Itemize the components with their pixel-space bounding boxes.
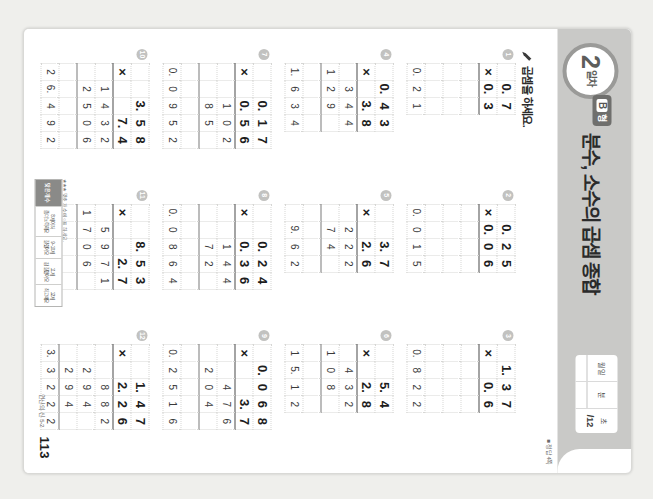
partial-product-digit[interactable] [199, 413, 217, 430]
partial-product-digit[interactable] [321, 255, 339, 272]
result-digit[interactable]: 0. [407, 64, 425, 81]
partial-product-digit[interactable]: 2 [77, 81, 95, 98]
empty-cell[interactable] [303, 238, 321, 255]
partial-product-digit[interactable]: 2 [95, 132, 113, 149]
result-digit[interactable]: 2 [407, 379, 425, 396]
partial-product-digit[interactable]: 2 [339, 396, 357, 413]
empty-cell[interactable] [443, 379, 461, 396]
result-digit[interactable]: 6 [285, 81, 303, 98]
partial-product-digit[interactable]: 1 [77, 204, 95, 221]
result-digit[interactable]: 0. [163, 204, 181, 221]
partial-product-digit[interactable]: 2 [199, 362, 217, 379]
empty-cell[interactable] [303, 64, 321, 81]
result-digit[interactable]: 8 [163, 238, 181, 255]
empty-cell[interactable] [181, 255, 199, 272]
partial-product-digit[interactable]: 2 [199, 255, 217, 272]
result-digit[interactable]: 5 [163, 379, 181, 396]
empty-cell[interactable] [461, 255, 479, 272]
partial-product-digit[interactable]: 3 [339, 81, 357, 98]
partial-product-digit[interactable]: 1 [95, 272, 113, 289]
empty-cell[interactable] [181, 272, 199, 289]
empty-cell[interactable] [461, 396, 479, 413]
result-digit[interactable]: 0. [407, 345, 425, 362]
partial-product-digit[interactable]: 4 [199, 396, 217, 413]
empty-cell[interactable] [303, 255, 321, 272]
partial-product-digit[interactable]: 2 [321, 81, 339, 98]
partial-product-digit[interactable] [217, 221, 235, 238]
result-digit[interactable]: 1 [163, 396, 181, 413]
empty-cell[interactable] [425, 379, 443, 396]
partial-product-digit[interactable]: 0 [77, 115, 95, 132]
empty-cell[interactable] [443, 362, 461, 379]
empty-cell[interactable] [461, 221, 479, 238]
empty-cell[interactable] [443, 98, 461, 115]
partial-product-digit[interactable] [339, 204, 357, 221]
partial-product-digit[interactable]: 6 [217, 413, 235, 430]
partial-product-digit[interactable] [199, 272, 217, 289]
partial-product-digit[interactable] [199, 64, 217, 81]
empty-cell[interactable] [181, 345, 199, 362]
partial-product-digit[interactable] [217, 81, 235, 98]
result-digit[interactable]: 1 [407, 238, 425, 255]
time-field[interactable]: 분 [575, 381, 617, 408]
empty-cell[interactable] [425, 238, 443, 255]
stamp-cell[interactable]: 8개 이하좀더 노력해요 [35, 206, 61, 236]
result-digit[interactable]: 1 [285, 379, 303, 396]
partial-product-digit[interactable]: 7 [95, 255, 113, 272]
empty-cell[interactable] [461, 81, 479, 98]
empty-cell[interactable] [461, 98, 479, 115]
empty-cell[interactable] [303, 204, 321, 221]
partial-product-digit[interactable] [77, 413, 95, 430]
result-digit[interactable]: 2 [285, 396, 303, 413]
partial-product-digit[interactable] [339, 345, 357, 362]
result-digit[interactable]: 2 [285, 255, 303, 272]
partial-product-digit[interactable]: 3 [339, 379, 357, 396]
result-digit[interactable]: 4 [285, 115, 303, 132]
partial-product-digit[interactable]: 2 [339, 221, 357, 238]
partial-product-digit[interactable] [217, 362, 235, 379]
partial-product-digit[interactable]: 2 [95, 413, 113, 430]
result-digit[interactable]: 6 [163, 413, 181, 430]
partial-product-digit[interactable] [321, 204, 339, 221]
partial-product-digit[interactable]: 4 [95, 98, 113, 115]
empty-cell[interactable] [443, 64, 461, 81]
empty-cell[interactable] [425, 345, 443, 362]
partial-product-digit[interactable]: 4 [321, 238, 339, 255]
partial-product-digit[interactable]: 8 [95, 396, 113, 413]
partial-product-digit[interactable] [339, 64, 357, 81]
partial-product-digit[interactable] [77, 272, 95, 289]
result-digit[interactable]: 3 [285, 98, 303, 115]
result-digit[interactable]: 0. [163, 64, 181, 81]
empty-cell[interactable] [443, 255, 461, 272]
result-digit[interactable]: 2 [407, 396, 425, 413]
empty-cell[interactable] [303, 221, 321, 238]
empty-cell[interactable] [425, 81, 443, 98]
partial-product-digit[interactable]: 2 [217, 132, 235, 149]
empty-cell[interactable] [181, 396, 199, 413]
partial-product-digit[interactable]: 4 [217, 272, 235, 289]
partial-product-digit[interactable]: 4 [339, 115, 357, 132]
empty-cell[interactable] [181, 98, 199, 115]
partial-product-digit[interactable] [95, 64, 113, 81]
empty-cell[interactable] [461, 345, 479, 362]
partial-product-digit[interactable]: 9 [77, 379, 95, 396]
empty-cell[interactable] [181, 81, 199, 98]
partial-product-digit[interactable]: 4 [339, 98, 357, 115]
partial-product-digit[interactable]: 0 [199, 379, 217, 396]
result-digit[interactable]: 0. [163, 345, 181, 362]
partial-product-digit[interactable] [217, 204, 235, 221]
result-digit[interactable]: 2 [163, 132, 181, 149]
empty-cell[interactable] [303, 396, 321, 413]
partial-product-digit[interactable]: 7 [217, 396, 235, 413]
empty-cell[interactable] [181, 132, 199, 149]
empty-cell[interactable] [181, 115, 199, 132]
partial-product-digit[interactable]: 1 [321, 345, 339, 362]
result-digit[interactable]: 9 [163, 98, 181, 115]
partial-product-digit[interactable] [95, 345, 113, 362]
empty-cell[interactable] [303, 379, 321, 396]
partial-product-digit[interactable]: 1 [321, 64, 339, 81]
empty-cell[interactable] [461, 362, 479, 379]
stamp-cell[interactable]: 11개참 잘했어요 [35, 258, 61, 284]
score-field[interactable]: 초 /12 [575, 408, 617, 433]
result-digit[interactable]: 2 [407, 81, 425, 98]
